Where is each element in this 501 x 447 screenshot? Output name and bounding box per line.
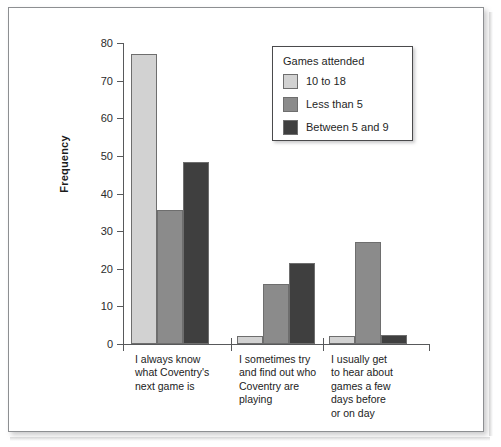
category-label-line: what Coventry's	[135, 366, 231, 379]
x-axis-separator-tick	[231, 338, 232, 351]
bar	[355, 242, 381, 344]
bar	[131, 54, 157, 344]
category-label-line: games a few	[331, 380, 423, 393]
y-axis-tick	[117, 43, 124, 44]
legend-swatch	[283, 120, 298, 135]
x-axis-category-label: I usually getto hear aboutgames a fewday…	[331, 353, 423, 420]
category-label-line: Coventry are	[239, 380, 329, 393]
legend-label: Between 5 and 9	[306, 121, 389, 134]
category-label-line: or on day	[331, 407, 423, 420]
y-axis-tick-label-text: 10	[85, 301, 113, 312]
bar	[329, 336, 355, 344]
chart-legend: Games attended 10 to 18Less than 5Betwee…	[272, 46, 413, 141]
y-axis-tick	[117, 194, 124, 195]
category-label-line: and find out who	[239, 366, 329, 379]
y-axis-tick	[117, 306, 124, 307]
y-axis-tick-label-text: 20	[85, 264, 113, 275]
y-axis-tick-label: 0	[83, 339, 113, 350]
legend-label: 10 to 18	[306, 75, 346, 88]
y-axis-tick-label: 20	[83, 264, 113, 275]
y-axis-tick-label-text: 70	[85, 76, 113, 87]
bar	[183, 162, 209, 344]
y-axis-tick-label-text: 40	[85, 189, 113, 200]
y-axis-tick	[117, 81, 124, 82]
legend-title: Games attended	[283, 55, 364, 67]
bar	[289, 263, 315, 344]
y-axis-tick-label: 80	[83, 38, 113, 49]
y-axis-tick-label: 30	[83, 226, 113, 237]
y-axis-title: Frequency	[58, 104, 70, 224]
scan-edge-bottom	[10, 437, 490, 441]
x-axis-line	[123, 344, 429, 345]
bar	[381, 335, 407, 344]
bar	[237, 336, 263, 344]
bar	[157, 210, 183, 344]
y-axis-tick-label: 60	[83, 113, 113, 124]
category-label-line: to hear about	[331, 366, 423, 379]
bar-chart: Frequency 80706050403020100 I always kno…	[9, 8, 485, 433]
bar	[263, 284, 289, 344]
legend-label: Less than 5	[306, 98, 363, 111]
scanned-page-sheet: Frequency 80706050403020100 I always kno…	[8, 7, 484, 432]
category-label-line: days before	[331, 393, 423, 406]
category-label-line: next game is	[135, 380, 231, 393]
category-label-line: playing	[239, 393, 329, 406]
y-axis-tick-label: 50	[83, 151, 113, 162]
legend-swatch	[283, 74, 298, 89]
y-axis-tick-label: 10	[83, 301, 113, 312]
x-axis-category-label: I always knowwhat Coventry'snext game is	[135, 353, 231, 393]
x-axis-separator-tick	[323, 338, 324, 351]
x-axis-separator-tick	[123, 344, 124, 351]
x-axis-category-label: I sometimes tryand find out whoCoventry …	[239, 353, 329, 407]
y-axis-tick	[117, 118, 124, 119]
y-axis-tick-label-text: 50	[85, 151, 113, 162]
y-axis-tick-label-text: 60	[85, 113, 113, 124]
y-axis-tick	[117, 156, 124, 157]
category-label-line: I always know	[135, 353, 231, 366]
legend-swatch	[283, 97, 298, 112]
category-label-line: I sometimes try	[239, 353, 329, 366]
y-axis-tick-label: 70	[83, 76, 113, 87]
y-axis-tick-label-text: 30	[85, 226, 113, 237]
scan-edge-right	[489, 12, 493, 436]
y-axis-tick-label-text: 80	[85, 38, 113, 49]
category-label-line: I usually get	[331, 353, 423, 366]
y-axis-tick-label: 40	[83, 189, 113, 200]
y-axis-tick-label-text: 0	[85, 339, 113, 350]
x-axis-separator-tick	[429, 344, 430, 351]
y-axis-tick	[117, 269, 124, 270]
y-axis-tick	[117, 231, 124, 232]
